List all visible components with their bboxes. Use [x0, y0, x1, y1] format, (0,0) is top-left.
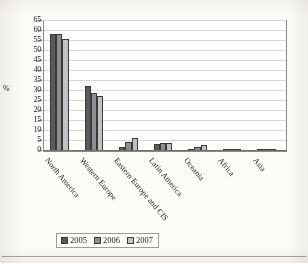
bar-group — [148, 21, 183, 151]
bar[interactable] — [97, 96, 103, 151]
bar-group — [251, 21, 286, 151]
bar-chart-figure: % 05101520253035404550556065 North Ameri… — [0, 0, 308, 263]
y-axis-tick-mark — [38, 90, 42, 91]
y-axis-tick-mark — [38, 50, 42, 51]
legend-label: 2005 — [70, 236, 87, 245]
page-rule — [2, 256, 306, 257]
legend-label: 2007 — [136, 236, 153, 245]
y-axis-tick-mark — [38, 80, 42, 81]
x-axis-category-label: Oceania — [182, 156, 206, 182]
y-axis-tick-mark — [38, 120, 42, 121]
bar-group — [44, 21, 79, 151]
y-axis-tick-mark — [38, 110, 42, 111]
legend-item[interactable]: 2005 — [61, 236, 87, 245]
y-axis-tick-mark — [38, 150, 42, 151]
y-axis-tick-mark — [38, 140, 42, 141]
legend-swatch-icon — [61, 237, 68, 244]
plot-area — [43, 20, 287, 152]
bar-group — [79, 21, 114, 151]
y-axis-tick-labels: 05101520253035404550556065 — [18, 14, 41, 158]
legend-swatch-icon — [94, 237, 101, 244]
y-axis-tick-mark — [38, 60, 42, 61]
legend-item[interactable]: 2006 — [94, 236, 120, 245]
y-axis-tick-mark — [38, 130, 42, 131]
y-axis-tick-mark — [38, 100, 42, 101]
bar-group — [217, 21, 252, 151]
x-axis-category-label: Latin America — [147, 156, 184, 198]
x-axis-category-labels: North AmericaWestern EuropeEastern Europ… — [0, 152, 308, 237]
chart-legend: 200520062007 — [56, 233, 159, 248]
legend-item[interactable]: 2007 — [127, 236, 153, 245]
y-axis-tick-mark — [38, 30, 42, 31]
bar-groups — [44, 21, 286, 151]
y-axis-tick-mark — [38, 40, 42, 41]
y-axis-tick-mark — [38, 70, 42, 71]
bar-group — [113, 21, 148, 151]
x-axis-category-label: Africa — [216, 156, 236, 178]
y-axis-title: % — [3, 84, 10, 93]
x-axis-line — [44, 150, 286, 151]
legend-label: 2006 — [103, 236, 120, 245]
bar-group — [182, 21, 217, 151]
y-axis-tick-mark — [38, 20, 42, 21]
bar[interactable] — [62, 39, 68, 151]
x-axis-category-label: Asia — [251, 156, 268, 173]
x-axis-category-label: North America — [43, 156, 81, 199]
legend-swatch-icon — [127, 237, 134, 244]
